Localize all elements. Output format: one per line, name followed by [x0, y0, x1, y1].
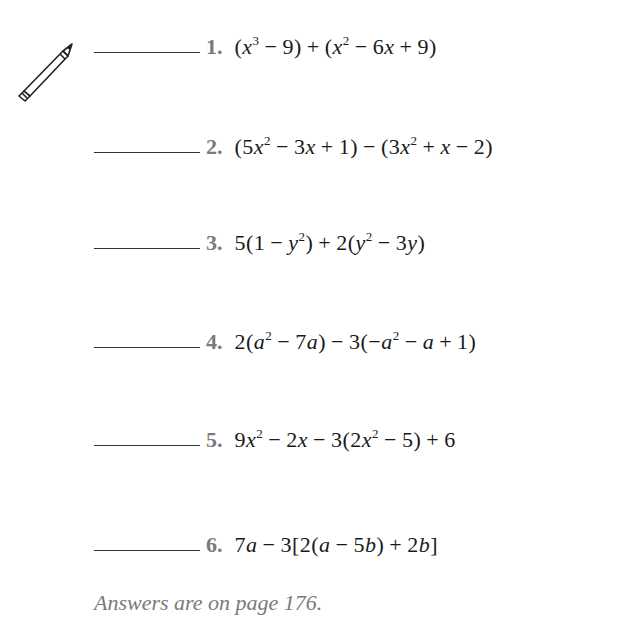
problem-expression: (5x2−3x+1)−(3x2+x−2)	[235, 134, 493, 160]
problem-number: 2.	[206, 134, 223, 160]
problem-6: 6. 7a−3[2(a−5b)+2b]	[94, 532, 438, 562]
problem-expression: 7a−3[2(a−5b)+2b]	[235, 532, 439, 558]
problem-3: 3. 5(1−y2)+2(y2−3y)	[94, 230, 425, 260]
problem-number: 4.	[206, 329, 223, 355]
problem-number: 3.	[206, 230, 223, 256]
problem-2: 2. (5x2−3x+1)−(3x2+x−2)	[94, 134, 493, 164]
answer-blank-1[interactable]	[94, 52, 200, 53]
problem-4: 4. 2(a2−7a)−3(−a2−a+1)	[94, 329, 476, 359]
problem-number: 6.	[206, 532, 223, 558]
problem-expression: (x3−9)+(x2−6x+9)	[235, 34, 437, 60]
problem-expression: 5(1−y2)+2(y2−3y)	[235, 230, 426, 256]
problem-expression: 9x2−2x−3(2x2−5)+6	[235, 427, 456, 453]
problem-expression: 2(a2−7a)−3(−a2−a+1)	[235, 329, 477, 355]
problem-5: 5. 9x2−2x−3(2x2−5)+6	[94, 427, 456, 457]
answer-blank-5[interactable]	[94, 445, 200, 446]
problem-number: 1.	[206, 34, 223, 60]
pencil-icon	[14, 40, 78, 104]
answer-blank-2[interactable]	[94, 152, 200, 153]
problem-1: 1. (x3−9)+(x2−6x+9)	[94, 34, 437, 64]
problem-number: 5.	[206, 427, 223, 453]
answer-blank-3[interactable]	[94, 248, 200, 249]
answer-blank-6[interactable]	[94, 550, 200, 551]
answers-footnote: Answers are on page 176.	[94, 590, 322, 616]
answer-blank-4[interactable]	[94, 347, 200, 348]
